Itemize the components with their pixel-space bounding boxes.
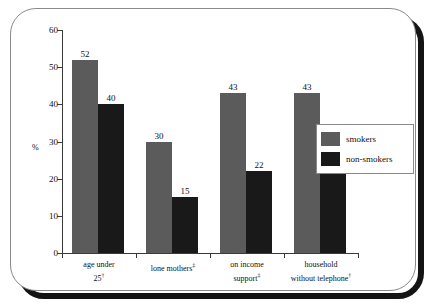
bar-non-smokers[interactable]: 23 [320,168,346,253]
x-tick-mark [358,253,359,258]
bar-smokers[interactable]: 43 [220,93,246,253]
legend-swatch-non-smokers [321,152,340,166]
bar-value-label: 43 [229,83,238,92]
bar-value-label: 30 [155,132,164,141]
y-axis-tick-labels: 0102030405060 [34,8,58,291]
bar-group: 4322 [210,30,284,253]
bars-layer: 5240301543224323 [62,30,358,253]
bar-value-label: 43 [303,83,312,92]
bar-non-smokers[interactable]: 15 [172,197,198,253]
legend-label-smokers: smokers [346,134,376,144]
legend-swatch-smokers [321,132,340,146]
chart-legend: smokers non-smokers [316,124,414,174]
x-axis-category-labels: age under25†lone mothers‡on incomesuppor… [62,260,358,290]
x-tick-mark [284,253,285,258]
bar-non-smokers[interactable]: 40 [98,104,124,253]
chart-plot-area: % 0102030405060 5240301543224323 age und… [10,8,416,291]
figure-root: % 0102030405060 5240301543224323 age und… [0,0,435,308]
legend-item-non-smokers[interactable]: non-smokers [321,149,409,169]
bar-value-label: 22 [255,161,264,170]
bar-smokers[interactable]: 52 [72,60,98,253]
legend-label-non-smokers: non-smokers [346,154,393,164]
bar-value-label: 40 [107,94,116,103]
x-category-label: householdwithout telephone† [272,260,370,284]
bar-smokers[interactable]: 30 [146,142,172,254]
bar-value-label: 15 [181,187,190,196]
x-tick-mark [210,253,211,258]
x-tick-mark [62,253,63,258]
legend-item-smokers[interactable]: smokers [321,129,409,149]
x-tick-mark [136,253,137,258]
bar-group: 5240 [62,30,136,253]
bar-non-smokers[interactable]: 22 [246,171,272,253]
bar-group: 3015 [136,30,210,253]
bar-value-label: 52 [81,50,90,59]
